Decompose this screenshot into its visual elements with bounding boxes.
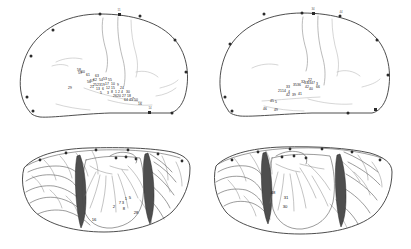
stimulation-site: 33 (286, 85, 290, 89)
stimulation-site: 49 (274, 108, 278, 112)
stimulation-site: 48 (271, 190, 276, 195)
edge-label: 14 (148, 106, 152, 110)
stimulation-site: 64 (124, 98, 128, 102)
stimulation-site: 47 (311, 81, 315, 85)
stimulation-site: 46 (263, 107, 267, 111)
stimulation-site: 12 (106, 86, 110, 90)
panel-opened-sylvian-left: 2 7 3 1 5 8 16 28 (0, 125, 205, 249)
stimulation-site: 66 (316, 85, 320, 89)
stimulation-site: 36 (297, 83, 301, 87)
stimulation-site: 16 (92, 217, 97, 222)
brain-outline-path (20, 14, 187, 117)
stimulation-site: 41 (298, 92, 302, 96)
panel-opened-sylvian-right: 48 31 30 (205, 125, 411, 249)
opened-sylvian-left-svg: 2 7 3 1 5 8 16 28 (0, 125, 205, 249)
stimulation-site: 31 (284, 195, 289, 200)
stimulation-site: 28 (134, 210, 139, 215)
stimulation-site: 45 (129, 98, 133, 102)
lateral-brain-outline-left-svg: 11 14 58 59 60 61 63 62 57 56 29 54 53 5… (0, 0, 205, 125)
stimulation-site: 20 (117, 94, 121, 98)
opened-sylvian-right-svg: 48 31 30 (205, 125, 411, 249)
stimulation-site: 21 (90, 85, 94, 89)
stimulation-site: 16 (138, 102, 142, 106)
panel-lateral-hemisphere-left: 11 14 58 59 60 61 63 62 57 56 29 54 53 5… (0, 0, 205, 125)
stimulation-site: 3 (107, 91, 109, 95)
stimulation-site: 45 (270, 99, 274, 103)
brain-outline-path (220, 13, 390, 116)
edge-label-group: 34 44 (311, 7, 343, 14)
stimulation-site: 29 (68, 86, 72, 90)
stimulation-site: 40 (309, 87, 313, 91)
stimulation-site: 60 (81, 70, 85, 74)
stimulation-site: 30 (283, 204, 288, 209)
panel-lateral-hemisphere-right: 34 44 22 32 37 43 47 3 35 36 42 66 33 40… (205, 0, 411, 125)
stimulation-site: 9 (117, 83, 119, 87)
stimulation-site: 39 (292, 93, 296, 97)
stimulation-site: 53 (103, 77, 107, 81)
brain-mass-outline (22, 148, 190, 232)
edge-label: 44 (339, 10, 343, 14)
edge-label: 34 (311, 7, 315, 11)
brain-mass-outline (214, 147, 392, 234)
stimulation-site: 6 (102, 87, 104, 91)
figure-root: 11 14 58 59 60 61 63 62 57 56 29 54 53 5… (0, 0, 411, 249)
stimulation-site: 5 (275, 100, 277, 104)
stimulation-site: 56 (87, 80, 91, 84)
stimulation-site: 61 (86, 73, 90, 77)
edge-label: 11 (118, 8, 121, 12)
stimulation-site: 5 (100, 91, 102, 95)
lateral-brain-outline-right-svg: 34 44 22 32 37 43 47 3 35 36 42 66 33 40… (205, 0, 411, 125)
stimulation-site: 42 (286, 93, 290, 97)
